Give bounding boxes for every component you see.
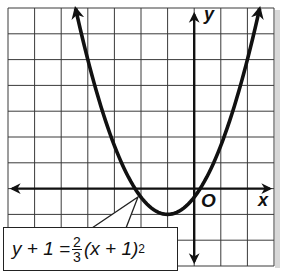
frame-shadow: [275, 10, 280, 268]
x-axis-label: x: [258, 190, 268, 211]
fraction-numerator: 2: [72, 235, 82, 250]
equation-label: y + 1 = 2 3 (x + 1) 2: [3, 227, 178, 271]
origin-label: O: [201, 190, 216, 212]
equation-fraction: 2 3: [72, 235, 82, 264]
equation-lhs: y + 1 =: [12, 238, 70, 260]
callout-pointer: [92, 197, 138, 228]
fraction-denominator: 3: [73, 250, 81, 264]
equation-exponent: 2: [138, 242, 145, 256]
y-axis-label: y: [204, 4, 214, 25]
equation-rhs: (x + 1): [84, 238, 138, 260]
